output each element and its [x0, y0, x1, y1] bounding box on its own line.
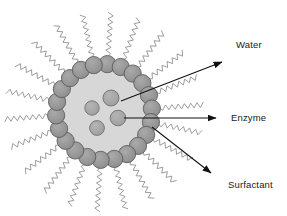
label-surfactant: Surfactant [228, 179, 273, 190]
enzyme-particle [85, 101, 99, 115]
enzyme-particle [103, 90, 119, 106]
label-enzyme: Enzyme [231, 112, 266, 123]
label-water: Water [236, 39, 262, 50]
figure-container: Water Enzyme Surfactant [0, 0, 287, 216]
enzyme-particle [90, 121, 105, 136]
surfactant-head [85, 57, 102, 74]
micelle-diagram: Water Enzyme Surfactant [0, 0, 287, 216]
enzyme-particle [110, 110, 126, 126]
